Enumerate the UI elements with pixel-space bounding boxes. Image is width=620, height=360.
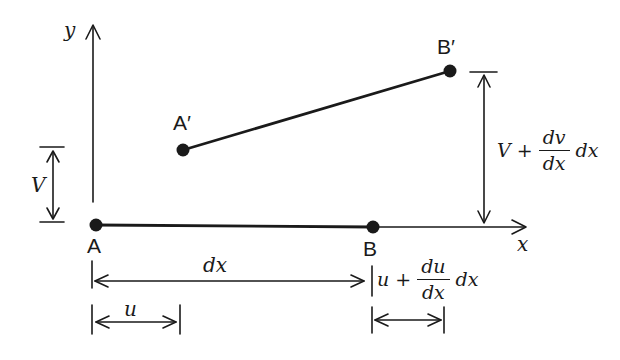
v-plus-fraction-denominator: dx xyxy=(543,151,566,173)
point-a-label: A xyxy=(87,235,101,256)
y-axis-label: y xyxy=(64,20,75,40)
point-a-dot xyxy=(90,219,103,232)
u-plus-suffix: dx xyxy=(456,270,479,289)
x-axis-label: x xyxy=(517,234,528,254)
v-dimension-label: V xyxy=(31,175,45,195)
v-plus-fraction: dv dx xyxy=(539,128,570,173)
v-plus-expression: V + dv dx dx xyxy=(497,128,598,173)
u-plus-expression: u + du dx dx xyxy=(377,257,479,302)
u-plus-dimension xyxy=(372,307,444,333)
u-plus-prefix: u + xyxy=(377,270,411,289)
u-plus-fraction-numerator: du xyxy=(417,257,449,280)
dx-dimension xyxy=(92,261,372,296)
point-b-label: B xyxy=(363,238,377,259)
member-ab-line xyxy=(96,225,373,227)
point-b-prime-dot xyxy=(444,65,457,78)
member-a-prime-b-prime-line xyxy=(183,71,450,150)
u-plus-fraction: du dx xyxy=(417,257,449,302)
point-a-prime-dot xyxy=(177,144,190,157)
dx-dimension-label: dx xyxy=(203,255,227,275)
v-plus-prefix: V + xyxy=(497,141,533,160)
point-b-dot xyxy=(367,221,380,234)
v-plus-suffix: dx xyxy=(576,141,599,160)
y-axis xyxy=(86,25,100,202)
point-a-prime-label: A′ xyxy=(173,112,191,133)
v-plus-fraction-numerator: dv xyxy=(539,128,570,151)
u-plus-fraction-denominator: dx xyxy=(422,280,445,302)
displacement-diagram: y x A B A′ B′ V dx u V + dv dx dx u + du… xyxy=(0,0,620,360)
diagram-linework xyxy=(0,0,620,360)
x-axis xyxy=(373,220,526,234)
point-b-prime-label: B′ xyxy=(437,36,455,57)
u-dimension-label: u xyxy=(124,299,137,319)
v-plus-dimension xyxy=(470,72,497,223)
